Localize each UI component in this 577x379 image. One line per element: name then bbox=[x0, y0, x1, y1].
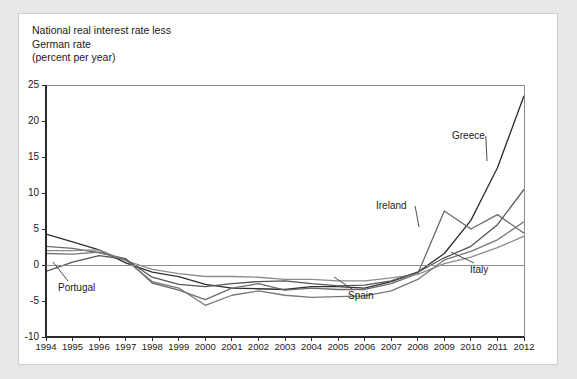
y-tick-label: 15 bbox=[13, 151, 39, 162]
y-tick-label: 5 bbox=[13, 223, 39, 234]
chart-title: National real interest rate less German … bbox=[32, 24, 171, 65]
y-tick-label: 10 bbox=[13, 187, 39, 198]
x-tick-label: 1994 bbox=[31, 341, 61, 352]
y-tick-label: 0 bbox=[13, 259, 39, 270]
x-tick-label: 2012 bbox=[509, 341, 539, 352]
x-tick-label: 2009 bbox=[429, 341, 459, 352]
x-tick-label: 2007 bbox=[376, 341, 406, 352]
series-label-greece: Greece bbox=[452, 130, 485, 141]
y-tick-label: 20 bbox=[13, 115, 39, 126]
series-label-italy: Italy bbox=[470, 264, 488, 275]
series-label-ireland: Ireland bbox=[376, 200, 407, 211]
x-tick-label: 2011 bbox=[482, 341, 512, 352]
x-tick-label: 2002 bbox=[243, 341, 273, 352]
x-tick-label: 2003 bbox=[270, 341, 300, 352]
x-tick-label: 2000 bbox=[190, 341, 220, 352]
x-tick-label: 1999 bbox=[164, 341, 194, 352]
x-tick-label: 2008 bbox=[403, 341, 433, 352]
x-tick-label: 1996 bbox=[84, 341, 114, 352]
x-tick-label: 1995 bbox=[58, 341, 88, 352]
series-label-spain: Spain bbox=[348, 290, 374, 301]
x-tick-label: 2004 bbox=[297, 341, 327, 352]
series-label-portugal: Portugal bbox=[58, 282, 95, 293]
x-tick-label: 2005 bbox=[323, 341, 353, 352]
x-tick-label: 2006 bbox=[350, 341, 380, 352]
x-tick-label: 2001 bbox=[217, 341, 247, 352]
chart-panel bbox=[18, 13, 558, 365]
y-tick-label: -5 bbox=[13, 295, 39, 306]
x-tick-label: 2010 bbox=[456, 341, 486, 352]
x-tick-label: 1997 bbox=[111, 341, 141, 352]
chart-screenshot: National real interest rate less German … bbox=[0, 0, 577, 379]
x-tick-label: 1998 bbox=[137, 341, 167, 352]
y-tick-label: 25 bbox=[13, 79, 39, 90]
